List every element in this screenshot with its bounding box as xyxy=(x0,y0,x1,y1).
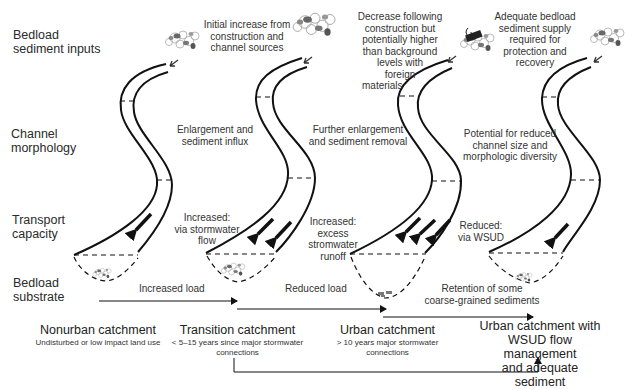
note-line: than background xyxy=(352,46,448,58)
note-line: runoff xyxy=(305,251,361,263)
note-line: recovery xyxy=(489,57,581,69)
note-morphology-wsud: Potential for reduced channel size and m… xyxy=(455,128,565,163)
transport-arrows-transition xyxy=(258,219,291,238)
catchment-title: Transition catchment xyxy=(170,323,305,337)
flow-label-reduced-load: Reduced load xyxy=(285,283,347,294)
catchment-subtitle: Undisturbed or low impact land use xyxy=(33,338,163,348)
catchment-title: Urban catchment with xyxy=(475,319,605,333)
sediment-input-icon-4 xyxy=(591,28,625,46)
substrate-sediment-4 xyxy=(515,273,532,282)
flow-arrows xyxy=(99,301,538,372)
channel-nonurban-sections xyxy=(74,101,172,281)
note-line: excess xyxy=(305,228,361,240)
catchment-title: Urban catchment xyxy=(330,323,445,337)
note-input-wsud: Adequate bedload sediment supply require… xyxy=(489,11,581,69)
note-line: coarse-grained sediments xyxy=(412,295,552,307)
catchment-subtitle: > 10 years major stormwater xyxy=(330,338,445,348)
note-line: Further enlargement xyxy=(306,124,410,136)
note-line: protection and xyxy=(489,46,581,58)
note-line: via WSUD xyxy=(455,232,507,244)
note-line: Retention of some xyxy=(412,283,552,295)
catchment-urban: Urban catchment > 10 years major stormwa… xyxy=(330,323,445,357)
catchment-title: WSUD flow management xyxy=(475,333,605,361)
transport-arrows-urban xyxy=(406,218,450,235)
channel-wsud-sections xyxy=(489,97,600,283)
note-line: Increased: xyxy=(305,216,361,228)
note-line: sediment influx xyxy=(172,136,258,148)
note-line: construction and xyxy=(202,31,292,43)
flow-label-retention: Retention of some coarse-grained sedimen… xyxy=(412,283,552,306)
note-line: Enlargement and xyxy=(172,124,258,136)
note-line: materials xyxy=(352,80,448,92)
catchment-wsud: Urban catchment with WSUD flow managemen… xyxy=(475,319,605,389)
note-line: Decrease following xyxy=(352,11,448,23)
note-line: Initial increase from xyxy=(202,19,292,31)
note-line: construction but xyxy=(352,23,448,35)
note-line: channel size and xyxy=(455,140,565,152)
note-transport-urban: Increased: excess stromwater runoff xyxy=(305,216,361,262)
catchment-subtitle: connections xyxy=(170,348,305,358)
note-line: foreign xyxy=(352,69,448,81)
note-line: potentially higher xyxy=(352,34,448,46)
note-input-urban: Decrease following construction but pote… xyxy=(352,11,448,92)
note-line: required for xyxy=(489,34,581,46)
catchment-transition: Transition catchment < 5–15 years since … xyxy=(170,323,305,357)
note-line: flow xyxy=(172,235,242,247)
note-line: Adequate bedload xyxy=(489,11,581,23)
catchment-title: Nonurban catchment xyxy=(33,323,163,337)
substrate-sediment-2 xyxy=(221,263,244,276)
catchment-subtitle: < 5–15 years since major stormwater xyxy=(170,338,305,348)
note-input-transition: Initial increase from construction and c… xyxy=(202,19,292,54)
note-line: morphologic diversity xyxy=(455,151,565,163)
note-transport-wsud: Reduced: via WSUD xyxy=(455,220,507,243)
note-line: stromwater xyxy=(305,239,361,251)
transport-arrows-wsud xyxy=(555,224,568,238)
channel-nonurban xyxy=(74,64,172,255)
note-line: channel sources xyxy=(202,42,292,54)
note-line: Reduced: xyxy=(455,220,507,232)
note-line: Potential for reduced xyxy=(455,128,565,140)
note-line: sediment supply xyxy=(489,23,581,35)
catchment-subtitle: connections xyxy=(330,348,445,358)
sediment-input-icon-2 xyxy=(293,13,335,36)
note-line: Increased: xyxy=(172,212,242,224)
note-morphology-transition: Enlargement and sediment influx xyxy=(172,124,258,147)
note-line: levels with xyxy=(352,57,448,69)
note-transport-transition: Increased: via stormwater flow xyxy=(172,212,242,247)
substrate-sediment-1 xyxy=(93,268,111,278)
note-line: via stormwater xyxy=(172,224,242,236)
note-line: and sediment removal xyxy=(306,136,410,148)
catchment-title: and adequate sediment xyxy=(475,361,605,389)
sediment-input-icon-1 xyxy=(166,31,200,49)
note-morphology-urban: Further enlargement and sediment removal xyxy=(306,124,410,147)
flow-label-increased-load: Increased load xyxy=(139,283,205,294)
catchment-nonurban: Nonurban catchment Undisturbed or low im… xyxy=(33,323,163,348)
